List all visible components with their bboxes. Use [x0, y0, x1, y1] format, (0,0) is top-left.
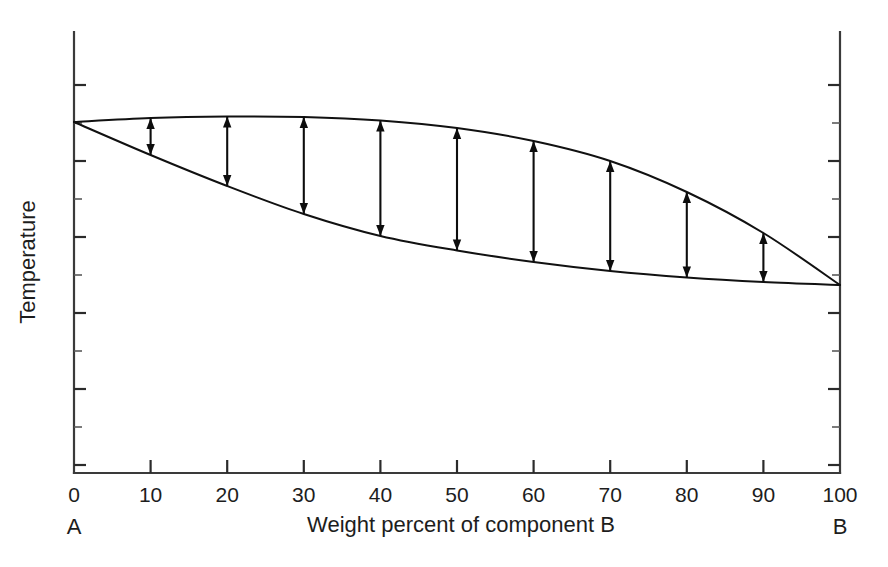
- x-tick-label: 80: [675, 483, 698, 506]
- x-tick-label: 100: [822, 483, 857, 506]
- x-tick-label: 10: [139, 483, 162, 506]
- y-axis-title: Temperature: [15, 200, 40, 324]
- component-b-label: B: [833, 514, 848, 539]
- x-tick-label: 60: [522, 483, 545, 506]
- x-tick-label: 70: [599, 483, 622, 506]
- component-a-label: A: [67, 514, 82, 539]
- x-tick-label: 50: [445, 483, 468, 506]
- x-tick-label: 20: [216, 483, 239, 506]
- x-axis-title: Weight percent of component B: [307, 512, 615, 537]
- x-tick-label: 30: [292, 483, 315, 506]
- binary-phase-diagram-chart: 0102030405060708090100 A B Weight percen…: [0, 0, 888, 567]
- x-tick-label: 40: [369, 483, 392, 506]
- x-tick-label: 90: [752, 483, 775, 506]
- x-tick-label: 0: [68, 483, 80, 506]
- phase-diagram-figure: 0102030405060708090100 A B Weight percen…: [0, 0, 888, 567]
- chart-background: [0, 0, 888, 567]
